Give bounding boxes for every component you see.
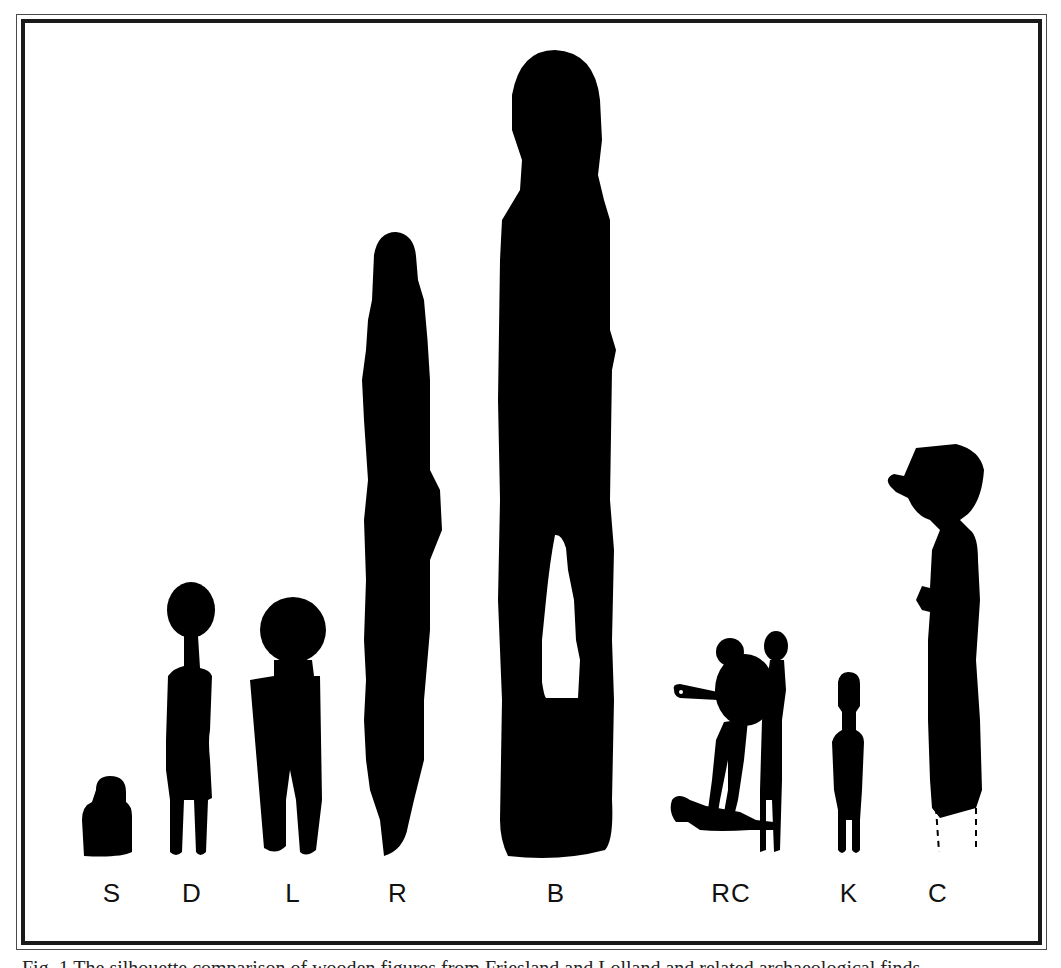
figure-caption: Fig. 1 The silhouette comparison of wood… — [22, 954, 920, 968]
label-k: K — [840, 878, 858, 909]
figure-b-silhouette — [498, 50, 616, 858]
label-d: D — [182, 878, 202, 909]
label-r: R — [388, 878, 408, 909]
figure-d-silhouette — [166, 582, 215, 855]
figure-r-silhouette — [362, 232, 442, 856]
label-s: S — [103, 878, 121, 909]
label-c: C — [928, 878, 948, 909]
figure-k-silhouette — [832, 672, 864, 853]
label-rc: RC — [711, 878, 751, 909]
figure-s-silhouette — [82, 776, 132, 857]
figure-silhouettes — [0, 0, 1061, 968]
label-b: B — [547, 878, 565, 909]
label-l: L — [285, 878, 300, 909]
figure-l-silhouette — [250, 597, 326, 855]
figure-rc-silhouette — [671, 631, 788, 852]
figure-c-silhouette — [888, 444, 984, 852]
